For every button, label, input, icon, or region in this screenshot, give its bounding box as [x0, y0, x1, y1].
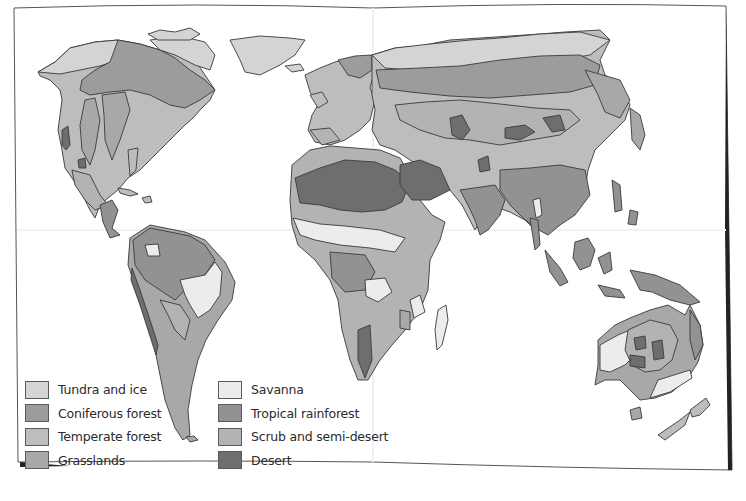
swatch-tundra: [25, 381, 49, 399]
legend-item-tundra: Tundra and ice: [25, 378, 161, 402]
swatch-temperate: [25, 428, 49, 446]
legend-label: Tundra and ice: [58, 382, 147, 397]
swatch-grasslands: [25, 451, 49, 469]
map-legend: Tundra and ice Coniferous forest Tempera…: [25, 378, 545, 478]
legend-label: Temperate forest: [58, 429, 161, 444]
legend-label: Savanna: [251, 382, 304, 397]
swatch-desert: [218, 451, 242, 469]
swatch-coniferous: [25, 404, 49, 422]
legend-item-grasslands: Grasslands: [25, 449, 161, 473]
legend-column-1: Tundra and ice Coniferous forest Tempera…: [25, 378, 161, 472]
legend-label: Coniferous forest: [58, 406, 161, 421]
legend-item-temperate: Temperate forest: [25, 425, 161, 449]
legend-item-rainforest: Tropical rainforest: [218, 402, 388, 426]
legend-column-2: Savanna Tropical rainforest Scrub and se…: [218, 378, 388, 472]
legend-item-savanna: Savanna: [218, 378, 388, 402]
legend-label: Tropical rainforest: [251, 406, 359, 421]
swatch-scrub: [218, 428, 242, 446]
legend-label: Desert: [251, 453, 291, 468]
legend-item-coniferous: Coniferous forest: [25, 402, 161, 426]
legend-item-scrub: Scrub and semi-desert: [218, 425, 388, 449]
legend-label: Scrub and semi-desert: [251, 429, 388, 444]
legend-label: Grasslands: [58, 453, 125, 468]
legend-item-desert: Desert: [218, 449, 388, 473]
swatch-rainforest: [218, 404, 242, 422]
swatch-savanna: [218, 381, 242, 399]
